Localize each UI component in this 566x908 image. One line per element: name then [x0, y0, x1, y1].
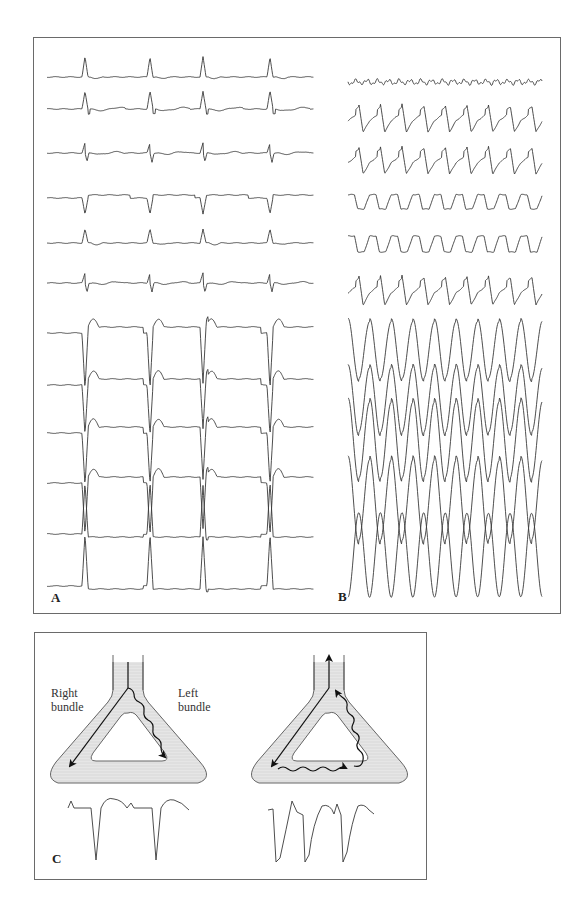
- reentry-conduction-diagram: [251, 650, 407, 783]
- panel-a-lead-trace: [47, 57, 313, 79]
- lbbb-pattern-ecg: [68, 798, 189, 860]
- panel-a-lead-trace: [47, 195, 313, 215]
- panel-a-lead-trace: [47, 417, 313, 482]
- panel-b-lead-trace: [348, 236, 542, 253]
- panel-a-lead-trace: [47, 229, 313, 245]
- panel-b-traces: [348, 79, 542, 598]
- panel-b-lead-trace: [348, 364, 542, 436]
- panel-a-lead-trace: [47, 91, 313, 114]
- panel-a-lead-trace: [47, 143, 313, 163]
- bber-vt-ecg: [268, 801, 374, 862]
- panel-a-lead-trace: [47, 369, 313, 432]
- panel-b-lead-trace: [348, 79, 542, 86]
- panel-b-lead-trace: [348, 318, 542, 382]
- panel-b-lead-trace: [348, 194, 542, 209]
- panel-a-lead-trace: [47, 273, 313, 292]
- ecg-traces: [0, 0, 566, 908]
- normal-conduction-diagram: [50, 650, 206, 783]
- right-bundle-label: Right bundle: [51, 686, 84, 714]
- panel-a-label: A: [51, 590, 60, 606]
- panel-b-lead-trace: [348, 146, 542, 174]
- panel-a-lead-trace: [47, 317, 313, 386]
- panel-c-label: C: [52, 851, 61, 867]
- panel-a-lead-trace: [47, 537, 313, 592]
- panel-a-traces: [47, 57, 313, 592]
- panel-b-lead-trace: [348, 275, 542, 305]
- panel-b-lead-trace: [348, 398, 542, 483]
- panel-b-label: B: [338, 589, 347, 605]
- left-bundle-label: Left bundle: [178, 686, 211, 714]
- panel-b-lead-trace: [348, 104, 542, 132]
